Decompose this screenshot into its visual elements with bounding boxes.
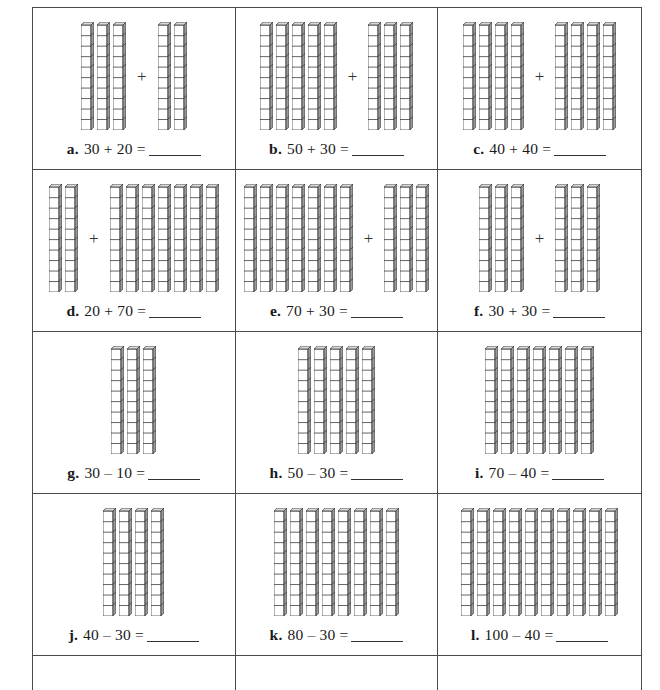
tens-rod <box>565 346 578 454</box>
answer-blank[interactable] <box>554 155 606 156</box>
tens-rod <box>368 22 381 130</box>
answer-blank[interactable] <box>149 155 201 156</box>
tens-rod <box>605 508 618 616</box>
base-ten-blocks: + <box>236 170 438 302</box>
tens-rod <box>135 508 148 616</box>
tens-rod <box>346 346 359 454</box>
tens-rod <box>143 346 156 454</box>
problem-label: g. <box>67 464 79 481</box>
rod-group <box>479 184 524 292</box>
tens-rod <box>509 508 522 616</box>
base-ten-blocks: + <box>33 8 235 140</box>
tens-rod <box>142 184 155 292</box>
base-ten-blocks: + <box>236 8 438 140</box>
tens-rod <box>571 22 584 130</box>
base-ten-blocks: + <box>438 8 641 140</box>
problem-expression: 30 – 10 = <box>84 464 145 481</box>
tens-rod <box>298 346 311 454</box>
tens-rod <box>370 508 383 616</box>
tens-rod <box>97 22 110 130</box>
tens-rod <box>517 346 530 454</box>
equation-line: i.70 – 40 = <box>438 464 641 493</box>
equation-line: c.40 + 40 = <box>438 140 641 169</box>
tens-rod <box>587 184 600 292</box>
rod-group <box>49 184 78 292</box>
problem-expression: 30 + 20 = <box>84 140 146 157</box>
tens-rod <box>206 184 219 292</box>
tens-rod <box>555 22 568 130</box>
plus-sign: + <box>353 230 385 247</box>
tens-rod <box>479 184 492 292</box>
problem-cell: k.80 – 30 = <box>236 494 439 656</box>
problem-expression: 40 + 40 = <box>489 140 551 157</box>
problem-expression: 100 – 40 = <box>485 626 554 643</box>
problem-grid: +a.30 + 20 =+b.50 + 30 =+c.40 + 40 =+d.2… <box>32 7 642 690</box>
tens-rod <box>495 184 508 292</box>
tens-rod <box>276 22 289 130</box>
base-ten-blocks: + <box>438 170 641 302</box>
problem-expression: 70 – 40 = <box>489 464 550 481</box>
tens-rod <box>151 508 164 616</box>
tens-rod <box>340 184 353 292</box>
problem-cell: +f.30 + 30 = <box>438 170 641 332</box>
answer-blank[interactable] <box>149 317 201 318</box>
answer-blank[interactable] <box>351 317 403 318</box>
tens-rod <box>384 184 397 292</box>
base-ten-blocks <box>236 332 438 464</box>
answer-blank[interactable] <box>148 479 200 480</box>
equation-line: j.40 – 30 = <box>33 626 235 655</box>
problem-label: c. <box>473 140 484 157</box>
tens-rod <box>81 22 94 130</box>
problem-label: f. <box>474 302 483 319</box>
tens-rod <box>306 508 319 616</box>
answer-blank[interactable] <box>552 479 604 480</box>
tens-rod <box>495 22 508 130</box>
problem-label: e. <box>270 302 281 319</box>
tens-rod <box>113 22 126 130</box>
tens-rod <box>501 346 514 454</box>
problem-expression: 50 + 30 = <box>287 140 349 157</box>
problem-label: d. <box>66 302 79 319</box>
tens-rod <box>314 346 327 454</box>
answer-blank[interactable] <box>147 641 199 642</box>
tens-rod <box>463 22 476 130</box>
problem-cell: +e.70 + 30 = <box>236 170 439 332</box>
problem-expression: 40 – 30 = <box>83 626 144 643</box>
problem-label: k. <box>270 626 283 643</box>
answer-blank[interactable] <box>352 155 404 156</box>
rod-group <box>81 22 126 130</box>
problem-expression: 50 – 30 = <box>287 464 348 481</box>
plus-sign: + <box>78 230 110 247</box>
tens-rod <box>126 184 139 292</box>
tens-rod <box>485 346 498 454</box>
answer-blank[interactable] <box>553 317 605 318</box>
tens-rod <box>308 184 321 292</box>
tens-rod <box>384 22 397 130</box>
tens-rod <box>119 508 132 616</box>
tens-rod <box>511 22 524 130</box>
tens-rod <box>158 22 171 130</box>
plus-sign: + <box>524 230 556 247</box>
tens-rod <box>190 184 203 292</box>
answer-blank[interactable] <box>351 641 403 642</box>
rod-group <box>368 22 413 130</box>
tens-rod <box>477 508 490 616</box>
plus-sign: + <box>126 68 158 85</box>
tens-rod <box>571 184 584 292</box>
tens-rod <box>479 22 492 130</box>
tens-rod <box>65 184 78 292</box>
rod-group <box>555 22 616 130</box>
tens-rod <box>49 184 62 292</box>
problem-cell: +b.50 + 30 = <box>236 8 439 170</box>
answer-blank[interactable] <box>351 479 403 480</box>
answer-blank[interactable] <box>556 641 608 642</box>
rod-group <box>485 346 594 454</box>
tens-rod <box>276 184 289 292</box>
base-ten-blocks <box>438 494 641 626</box>
rod-group <box>463 22 524 130</box>
problem-label: h. <box>270 464 283 481</box>
tens-rod <box>260 22 273 130</box>
problem-expression: 80 – 30 = <box>287 626 348 643</box>
equation-line: f.30 + 30 = <box>438 302 641 331</box>
tens-rod <box>174 184 187 292</box>
